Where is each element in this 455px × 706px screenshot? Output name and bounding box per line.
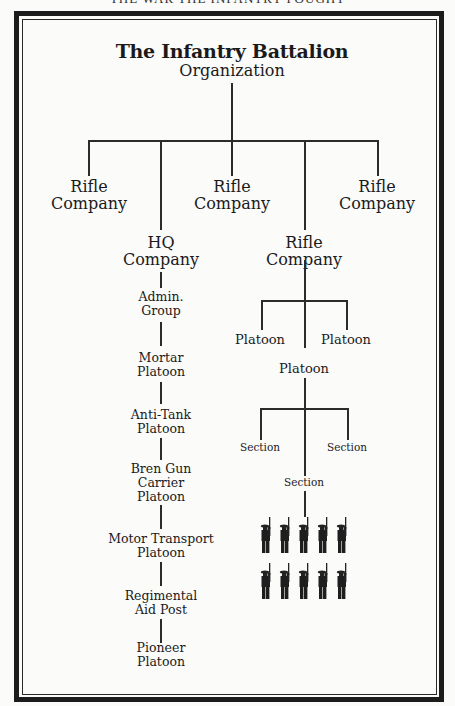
platoon-node: Platoon [279, 362, 329, 376]
hq-unit-node: Anti-Tank Platoon [131, 408, 191, 436]
connector-line [377, 140, 379, 176]
soldier-with-rifle-icon [298, 563, 310, 599]
node-label: Rifle [266, 234, 342, 251]
platoon-node: Platoon [235, 333, 285, 347]
hq-unit-node: Admin. Group [139, 290, 184, 318]
rifle-company-node: Rifle Company [194, 178, 270, 212]
soldier-with-rifle-icon [317, 563, 329, 599]
node-label: Company [194, 195, 270, 212]
connector-line [261, 300, 263, 330]
connector-line [160, 438, 162, 460]
node-label: Pioneer [137, 641, 186, 655]
connector-line [231, 140, 233, 176]
node-label: Platoon [137, 655, 186, 669]
chart-title: The Infantry Battalion [116, 42, 349, 62]
node-label: Anti-Tank [131, 408, 191, 422]
node-label: Platoon [131, 422, 191, 436]
connector-line [160, 562, 162, 586]
running-head: THE WAR THE INFANTRY FOUGHT [0, 0, 455, 7]
connector-line [260, 408, 262, 440]
node-label: Mortar [137, 351, 185, 365]
soldier-with-rifle-icon [260, 563, 272, 599]
node-label: Aid Post [125, 603, 198, 617]
connector-line [160, 272, 162, 288]
connector-line [304, 260, 306, 348]
connector-line [88, 140, 378, 142]
connector-line [88, 140, 90, 176]
node-label: Admin. [139, 290, 184, 304]
hq-unit-node: Mortar Platoon [137, 351, 185, 379]
node-label: HQ [123, 234, 199, 251]
soldier-with-rifle-icon [260, 517, 272, 553]
node-label: Platoon [131, 490, 192, 504]
hq-unit-node: Bren Gun Carrier Platoon [131, 462, 192, 504]
node-label: Company [123, 251, 199, 268]
connector-line [304, 491, 306, 517]
soldier-with-rifle-icon [336, 517, 348, 553]
soldier-with-rifle-icon [279, 563, 291, 599]
soldier-with-rifle-icon [298, 517, 310, 553]
node-label: Carrier [131, 476, 192, 490]
node-label: Company [339, 195, 415, 212]
section-node: Section [284, 477, 324, 488]
soldier-with-rifle-icon [336, 563, 348, 599]
connector-line [304, 140, 306, 230]
node-label: Rifle [51, 178, 127, 195]
connector-line [160, 322, 162, 346]
hq-unit-node: Regimental Aid Post [125, 589, 198, 617]
connector-line [261, 300, 348, 302]
node-label: Rifle [194, 178, 270, 195]
connector-line [347, 408, 349, 440]
hq-unit-node: Pioneer Platoon [137, 641, 186, 669]
connector-line [231, 83, 233, 141]
section-node: Section [240, 442, 280, 453]
connector-line [160, 382, 162, 404]
soldier-with-rifle-icon [279, 517, 291, 553]
node-label: Bren Gun [131, 462, 192, 476]
hq-unit-node: Motor Transport Platoon [108, 532, 214, 560]
node-label: Company [51, 195, 127, 212]
node-label: Group [139, 304, 184, 318]
platoon-node: Platoon [321, 333, 371, 347]
rifle-company-node: Rifle Company [339, 178, 415, 212]
node-label: Platoon [137, 365, 185, 379]
chart-subtitle: Organization [179, 63, 284, 80]
hq-company-node: HQ Company [123, 234, 199, 268]
inner-frame-border [22, 19, 437, 695]
soldier-with-rifle-icon [317, 517, 329, 553]
node-label: Regimental [125, 589, 198, 603]
node-label: Rifle [339, 178, 415, 195]
connector-line [260, 408, 348, 410]
node-label: Platoon [108, 546, 214, 560]
connector-line [346, 300, 348, 330]
connector-line [160, 505, 162, 529]
connector-line [160, 140, 162, 230]
rifle-company-node: Rifle Company [51, 178, 127, 212]
connector-line [304, 378, 306, 476]
section-node: Section [327, 442, 367, 453]
node-label: Motor Transport [108, 532, 214, 546]
